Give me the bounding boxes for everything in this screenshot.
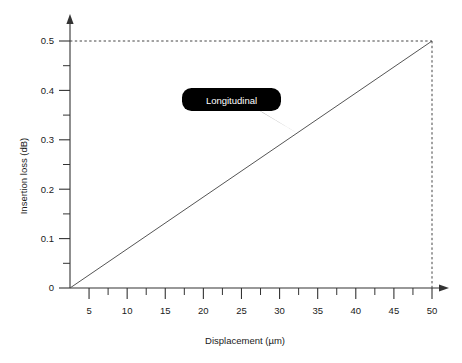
y-tick-label: 0.3	[41, 134, 54, 145]
x-tick-label: 50	[427, 305, 438, 316]
x-axis-title: Displacement (µm)	[205, 335, 285, 346]
insertion-loss-chart: 00.10.20.30.40.5 5101520253035404550 Lon…	[0, 0, 462, 363]
y-axis-minor-ticks	[63, 66, 70, 264]
x-tick-label: 10	[122, 305, 133, 316]
x-tick-label: 15	[160, 305, 171, 316]
y-axis	[66, 14, 73, 288]
y-axis-arrow-icon	[66, 14, 73, 24]
x-tick-label: 35	[312, 305, 323, 316]
x-axis-tick-labels: 5101520253035404550	[86, 305, 437, 316]
x-tick-label: 45	[389, 305, 400, 316]
data-series-longitudinal	[70, 41, 432, 288]
x-tick-label: 20	[198, 305, 209, 316]
y-tick-label: 0.2	[41, 184, 54, 195]
x-axis-arrow-icon	[439, 284, 449, 291]
y-tick-label: 0.1	[41, 233, 54, 244]
callout-label-text: Longitudinal	[206, 95, 257, 106]
callout-longitudinal: Longitudinal	[182, 88, 297, 133]
x-tick-label: 25	[236, 305, 247, 316]
chart-container: 00.10.20.30.40.5 5101520253035404550 Lon…	[0, 0, 462, 363]
x-axis-minor-ticks	[108, 288, 413, 295]
y-tick-label: 0	[49, 282, 54, 293]
series-line	[70, 41, 432, 288]
y-axis-tick-labels: 00.10.20.30.40.5	[41, 35, 54, 293]
y-axis-title: Insertion loss (dB)	[18, 138, 29, 215]
x-tick-label: 40	[351, 305, 362, 316]
callout-tail-icon	[255, 108, 297, 133]
x-tick-label: 30	[274, 305, 285, 316]
y-tick-label: 0.4	[41, 85, 54, 96]
x-tick-label: 5	[86, 305, 91, 316]
y-tick-label: 0.5	[41, 35, 54, 46]
